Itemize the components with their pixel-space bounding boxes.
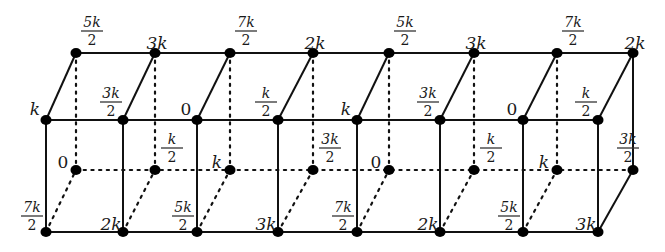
label-text: 0 <box>371 152 382 172</box>
label-text: 2k <box>99 214 121 234</box>
label-denominator: 2 <box>569 32 578 48</box>
label-numerator: k <box>262 85 270 101</box>
label-denominator: 2 <box>242 32 251 48</box>
label-numerator: 5k <box>396 14 413 30</box>
edge-bottom-diagonal <box>598 170 633 232</box>
label-numerator: 7k <box>564 14 581 30</box>
node-back-top <box>384 48 395 58</box>
label-front-top: k <box>341 99 351 119</box>
node-back-top <box>552 48 563 58</box>
edge-bottom-diagonal <box>523 170 557 232</box>
label-back-top: 2k <box>623 33 645 53</box>
label-front-top: k <box>30 99 40 119</box>
label-back-top: 7k2 <box>562 14 584 48</box>
labels: 5k2k07k23k3k2k22k7k20k5k22kk23k23k5k2k07… <box>21 14 646 234</box>
label-numerator: k <box>582 85 590 101</box>
edge-bottom-diagonal <box>123 170 155 232</box>
label-text: 3k <box>465 33 486 53</box>
label-denominator: 2 <box>339 217 348 233</box>
edge-bottom-diagonal <box>197 170 230 232</box>
label-front-bottom: 5k2 <box>172 199 194 233</box>
label-denominator: 2 <box>168 149 177 165</box>
label-text: 0 <box>181 99 192 119</box>
node-front-top <box>593 115 604 125</box>
label-denominator: 2 <box>505 217 514 233</box>
label-denominator: 2 <box>424 103 433 119</box>
label-front-bottom: 7k2 <box>21 199 43 233</box>
node-back-bottom <box>628 165 639 175</box>
label-numerator: 5k <box>174 199 191 215</box>
label-text: k <box>212 152 222 172</box>
label-front-bottom: 3k <box>575 214 596 234</box>
label-back-top: 5k2 <box>81 14 103 48</box>
label-denominator: 2 <box>582 103 591 119</box>
label-numerator: 7k <box>334 199 351 215</box>
label-denominator: 2 <box>179 217 188 233</box>
node-front-top <box>352 115 363 125</box>
label-denominator: 2 <box>88 32 97 48</box>
node-back-bottom <box>225 165 236 175</box>
label-numerator: 5k <box>500 199 517 215</box>
label-back-top: 3k <box>465 33 486 53</box>
label-front-bottom: 7k2 <box>332 199 354 233</box>
label-back-top: 7k2 <box>235 14 257 48</box>
edge-top-diagonal <box>46 53 76 120</box>
node-front-bottom <box>41 227 52 237</box>
node-back-top <box>225 48 236 58</box>
label-text: 0 <box>58 152 69 172</box>
label-front-bottom: 5k2 <box>498 199 520 233</box>
label-text: 3k <box>575 214 596 234</box>
label-back-bottom: k <box>539 152 549 172</box>
label-denominator: 2 <box>28 217 37 233</box>
edge-bottom-diagonal <box>46 170 76 232</box>
edge-bottom-diagonal <box>278 170 313 232</box>
label-front-top: 0 <box>181 99 192 119</box>
label-front-bottom: 2k <box>99 214 121 234</box>
edge-top-diagonal <box>278 53 313 120</box>
node-back-bottom <box>150 165 161 175</box>
label-back-bottom: 3k2 <box>319 131 341 165</box>
cube-chain-diagram: 5k2k07k23k3k2k22k7k20k5k22kk23k23k5k2k07… <box>0 0 665 252</box>
label-back-bottom: 0 <box>58 152 69 172</box>
label-back-bottom: 3k2 <box>617 131 639 165</box>
node-front-top <box>518 115 529 125</box>
edge-top-diagonal <box>598 53 633 120</box>
label-front-bottom: 2k <box>416 214 438 234</box>
label-front-top: k2 <box>255 85 277 119</box>
edge-top-diagonal <box>523 53 557 120</box>
label-back-bottom: k2 <box>480 131 502 165</box>
label-front-top: 3k2 <box>417 85 439 119</box>
edge-bottom-diagonal <box>440 170 474 232</box>
label-numerator: k <box>487 131 495 147</box>
label-front-top: 0 <box>507 99 518 119</box>
label-denominator: 2 <box>624 149 633 165</box>
node-front-bottom <box>352 227 363 237</box>
node-back-bottom <box>469 165 480 175</box>
label-denominator: 2 <box>487 149 496 165</box>
node-front-top <box>435 115 446 125</box>
label-numerator: 7k <box>237 14 254 30</box>
label-text: 2k <box>623 33 645 53</box>
label-back-top: 2k <box>303 33 325 53</box>
edge-top-diagonal <box>357 53 389 120</box>
label-back-bottom: k2 <box>161 131 183 165</box>
label-numerator: 3k <box>419 85 436 101</box>
label-back-top: 3k <box>146 33 167 53</box>
label-numerator: k <box>168 131 176 147</box>
label-denominator: 2 <box>107 103 116 119</box>
node-back-bottom <box>308 165 319 175</box>
edge-top-diagonal <box>123 53 155 120</box>
node-front-top <box>192 115 203 125</box>
label-back-bottom: 0 <box>371 152 382 172</box>
label-denominator: 2 <box>326 149 335 165</box>
label-text: 0 <box>507 99 518 119</box>
node-back-bottom <box>71 165 82 175</box>
label-text: k <box>30 99 40 119</box>
label-text: 3k <box>146 33 167 53</box>
label-numerator: 3k <box>102 85 119 101</box>
label-text: k <box>539 152 549 172</box>
node-back-bottom <box>384 165 395 175</box>
label-denominator: 2 <box>401 32 410 48</box>
label-front-top: 3k2 <box>100 85 122 119</box>
node-front-top <box>41 115 52 125</box>
